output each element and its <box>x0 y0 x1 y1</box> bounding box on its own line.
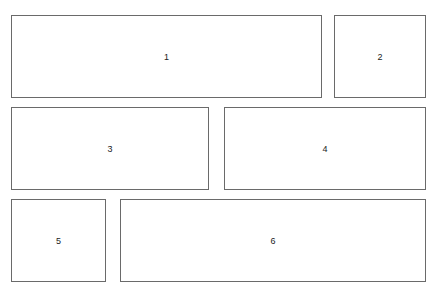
panel-5: 5 <box>11 199 106 282</box>
panel-label: 4 <box>322 144 327 154</box>
panel-label: 3 <box>107 144 112 154</box>
panel-6: 6 <box>120 199 426 282</box>
panel-label: 5 <box>56 236 61 246</box>
panel-2: 2 <box>334 15 426 98</box>
panel-label: 2 <box>377 52 382 62</box>
panel-1: 1 <box>11 15 322 98</box>
panel-label: 1 <box>164 52 169 62</box>
panel-label: 6 <box>270 236 275 246</box>
panel-3: 3 <box>11 107 209 190</box>
panel-4: 4 <box>224 107 426 190</box>
